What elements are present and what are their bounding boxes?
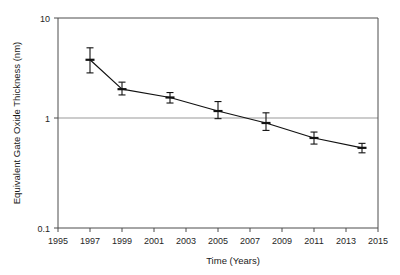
y-tick-label-10: 10 [40,14,50,24]
x-tick-label-2005: 2005 [208,236,228,246]
y-tick-label-1: 1 [45,114,50,124]
y-axis-title: Equivalent Gate Oxide Thickness (nm) [11,42,22,204]
x-axis-title: Time (Years) [206,255,260,266]
x-tick-label-2003: 2003 [176,236,196,246]
x-tick-label-2013: 2013 [336,236,356,246]
chart-figure: 10 1 0.1 1995 1997 1999 2001 2003 2005 [0,0,400,275]
x-tick-label-1997: 1997 [80,236,100,246]
y-axis-tick-labels: 10 1 0.1 [37,14,50,234]
x-axis-ticks [58,228,378,232]
plot-area-background [58,18,378,228]
x-tick-label-1995: 1995 [48,236,68,246]
x-axis-tick-labels: 1995 1997 1999 2001 2003 2005 2007 2009 … [48,236,388,246]
x-tick-label-1999: 1999 [112,236,132,246]
x-tick-label-2009: 2009 [272,236,292,246]
x-tick-label-2001: 2001 [144,236,164,246]
y-axis-ticks [54,18,58,228]
x-tick-label-2015: 2015 [368,236,388,246]
x-tick-label-2011: 2011 [304,236,323,246]
x-tick-label-2007: 2007 [240,236,260,246]
y-tick-label-0.1: 0.1 [37,224,50,234]
chart-canvas: 10 1 0.1 1995 1997 1999 2001 2003 2005 [0,0,400,275]
